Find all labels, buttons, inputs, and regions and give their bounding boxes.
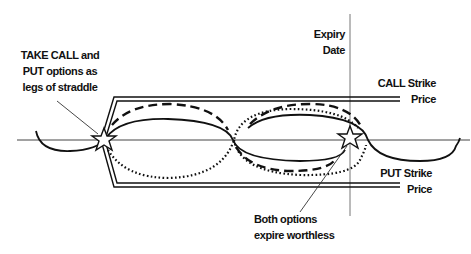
- expiry-line2: Date: [300, 42, 345, 58]
- put-strike-label: PUT Strike Price: [374, 165, 432, 197]
- call-strike-line2: Price: [374, 91, 436, 107]
- take-legs-line1: TAKE CALL and: [14, 47, 106, 63]
- expiry-pointer-line: [300, 146, 347, 212]
- call-strike-line1: CALL Strike: [374, 75, 436, 91]
- take-legs-line2: PUT options as: [14, 63, 106, 79]
- put-strike-line1: PUT Strike: [374, 165, 432, 181]
- worthless-label: Both options expire worthless: [254, 211, 334, 243]
- entry-pointer-line: [57, 101, 98, 134]
- take-legs-label: TAKE CALL and PUT options as legs of str…: [14, 47, 106, 95]
- put-strike-line2: Price: [374, 181, 432, 197]
- expiry-line1: Expiry: [300, 26, 345, 42]
- call-path-dashed: [112, 104, 362, 171]
- take-legs-line3: legs of straddle: [14, 79, 106, 95]
- expiry-date-label: Expiry Date: [300, 26, 345, 58]
- worthless-line2: expire worthless: [254, 227, 334, 243]
- call-strike-label: CALL Strike Price: [374, 75, 436, 107]
- worthless-line1: Both options: [254, 211, 334, 227]
- straddle-diagram: [0, 0, 471, 254]
